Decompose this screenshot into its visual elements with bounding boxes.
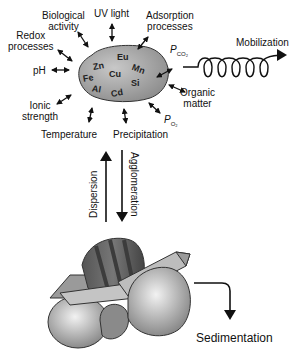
arrow-temperature	[89, 108, 92, 122]
element-al: Al	[91, 83, 102, 94]
label-redox-processes: Redox processes	[8, 30, 54, 52]
mobilization-arrow	[183, 55, 285, 77]
element-eu: Eu	[117, 52, 129, 62]
label-uv-light: UV light	[94, 8, 129, 19]
element-cd: Cd	[110, 87, 124, 99]
arrow-biological-activity	[78, 32, 88, 47]
label-organic-matter: Organic matter	[180, 87, 215, 109]
label-po2: PO₂	[164, 114, 178, 130]
element-zn: Zn	[92, 60, 105, 72]
label-ionic-strength: Ionic strength	[22, 100, 58, 122]
arrow-redox	[58, 50, 72, 61]
label-ph: pH	[33, 65, 46, 76]
label-agglomeration: Agglomeration	[129, 152, 140, 216]
aggregate-cluster	[48, 238, 190, 348]
label-mobilization: Mobilization	[236, 37, 289, 48]
arrow-po2	[149, 103, 160, 113]
element-fe: Fe	[82, 72, 94, 84]
label-pco2: PCO₂	[170, 44, 188, 60]
label-precipitation: Precipitation	[113, 129, 168, 140]
arrow-precipitation	[124, 109, 126, 123]
label-temperature: Temperature	[41, 129, 97, 140]
diagram-graphics	[0, 0, 300, 355]
element-cu: Cu	[109, 69, 121, 79]
label-sedimentation: Sedimentation	[196, 333, 273, 344]
label-adsorption-processes: Adsorption processes	[146, 10, 194, 32]
sedimentation-arrow	[194, 283, 230, 318]
element-si: Si	[131, 78, 140, 88]
label-dispersion: Dispersion	[88, 171, 99, 218]
label-biological-activity: Biological activity	[42, 10, 85, 32]
arrow-ionic-strength	[57, 95, 71, 104]
